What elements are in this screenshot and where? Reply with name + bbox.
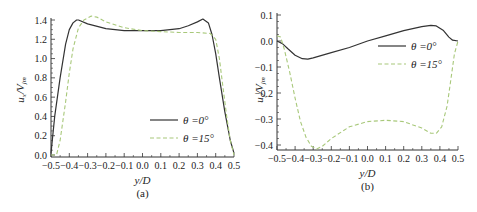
figure: −0.5−0.4−0.3−0.2−0.10.00.10.20.30.40.50.… (0, 0, 477, 212)
x-tick-label: 0.5 (228, 160, 241, 171)
x-tick-label: 0.4 (209, 160, 222, 171)
x-tick-label: 0.2 (173, 160, 186, 171)
panel-b: −0.5−0.4−0.3−0.2−0.10.00.10.20.30.40.50.… (253, 10, 464, 194)
x-tick-label: −0.1 (340, 153, 358, 164)
x-tick-label: 0.2 (397, 153, 410, 164)
x-tick-label: −0.1 (115, 160, 133, 171)
y-tick-label: 1.4 (35, 15, 48, 26)
y-tick-label: 0.0 (35, 150, 48, 161)
y-tick-label: 0.8 (35, 72, 48, 83)
y-tick-label: −0.3 (255, 114, 273, 125)
legend-label: θ =0° (411, 40, 437, 52)
y-tick-label: 0.0 (261, 36, 274, 47)
x-axis-label: y/D (134, 174, 151, 186)
x-tick-label: 0.4 (434, 153, 447, 164)
x-tick-label: −0.4 (60, 160, 78, 171)
x-axis-label: y/D (359, 167, 376, 179)
series-theta-15 (277, 36, 458, 149)
x-tick-label: 0.1 (379, 153, 392, 164)
y-tick-label: 1.0 (35, 53, 48, 64)
panel-caption: (b) (361, 180, 374, 193)
panel-a: −0.5−0.4−0.3−0.2−0.10.00.10.20.30.40.50.… (14, 15, 240, 201)
x-tick-label: −0.4 (286, 153, 304, 164)
y-axis-label: ux/Vjm (14, 77, 28, 102)
x-tick-label: 0.1 (155, 160, 168, 171)
x-tick-label: −0.2 (97, 160, 115, 171)
y-tick-label: 0.4 (35, 111, 48, 122)
legend-label: θ =15° (183, 132, 215, 144)
x-tick-label: 0.3 (416, 153, 429, 164)
legend-label: θ =15° (411, 58, 443, 70)
y-tick-label: 0.6 (35, 92, 48, 103)
panel-caption: (a) (136, 187, 149, 200)
x-tick-label: 0.3 (191, 160, 204, 171)
x-tick-label: −0.5 (268, 153, 286, 164)
y-tick-label: 0.1 (261, 10, 274, 21)
x-tick-label: −0.3 (304, 153, 322, 164)
x-tick-label: 0.0 (136, 160, 149, 171)
y-tick-label: −0.1 (255, 62, 273, 73)
x-tick-label: −0.2 (322, 153, 340, 164)
legend-label: θ =0° (183, 114, 209, 126)
y-axis-label: uy/Vjm (253, 77, 267, 102)
x-tick-label: −0.3 (79, 160, 97, 171)
y-tick-label: 1.2 (35, 34, 48, 45)
x-tick-label: 0.0 (361, 153, 374, 164)
x-tick-label: 0.5 (452, 153, 465, 164)
x-tick-label: −0.5 (42, 160, 60, 171)
y-tick-label: −0.4 (255, 140, 273, 151)
y-tick-label: 0.2 (35, 130, 48, 141)
